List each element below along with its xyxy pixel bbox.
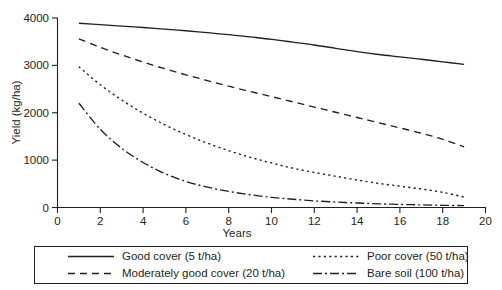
x-tick-label: 12 [308, 215, 321, 227]
legend-label: Good cover (5 t/ha) [122, 250, 221, 262]
legend-label: Poor cover (50 t/ha) [367, 250, 469, 262]
x-tick-label: 20 [479, 215, 492, 227]
x-axis-title: Years [223, 227, 252, 239]
x-tick-label: 2 [97, 215, 103, 227]
y-tick-label: 4000 [23, 12, 49, 24]
x-tick-label: 18 [436, 215, 449, 227]
y-tick-label: 0 [43, 202, 49, 214]
x-tick-label: 16 [394, 215, 407, 227]
x-tick-label: 6 [183, 215, 189, 227]
x-tick-label: 8 [225, 215, 231, 227]
legend-label: Moderately good cover (20 t/ha) [122, 267, 285, 279]
x-tick-label: 10 [265, 215, 278, 227]
chart-figure: 01000200030004000 02468101214161820 Yiel… [0, 0, 502, 290]
x-tick-label: 4 [140, 215, 147, 227]
y-tick-label: 1000 [23, 154, 49, 166]
legend-label: Bare soil (100 t/ha) [367, 267, 464, 279]
y-axis-title: Yield (kg/ha) [10, 80, 22, 144]
yield-decline-line-chart: 01000200030004000 02468101214161820 Yiel… [0, 0, 502, 290]
y-tick-label: 2000 [23, 107, 49, 119]
x-tick-label: 0 [54, 215, 60, 227]
y-tick-label: 3000 [23, 59, 49, 71]
x-tick-label: 14 [351, 215, 364, 227]
